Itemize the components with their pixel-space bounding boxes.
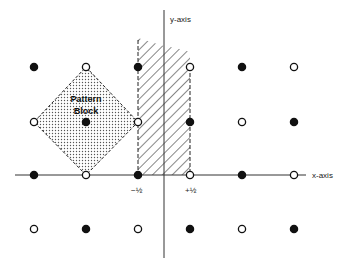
open-circle-icon xyxy=(82,171,89,178)
open-circle-icon xyxy=(290,63,297,70)
tick-label-plus-half: +½ xyxy=(185,186,197,195)
filled-circle-icon xyxy=(186,225,193,232)
filled-circle-icon xyxy=(290,118,297,125)
filled-circle-icon xyxy=(82,225,89,232)
lattice-diagram: Pattern Block x-axis y-axis −½ +½ xyxy=(0,0,357,267)
filled-circle-icon xyxy=(186,118,193,125)
open-circle-icon xyxy=(134,225,141,232)
open-circle-icon xyxy=(30,118,37,125)
tick-label-minus-half: −½ xyxy=(131,186,143,195)
open-circle-icon xyxy=(238,225,245,232)
filled-circle-icon xyxy=(134,171,141,178)
filled-circle-icon xyxy=(134,63,141,70)
open-circle-icon xyxy=(238,118,245,125)
open-circle-icon xyxy=(134,118,141,125)
filled-circle-icon xyxy=(238,63,245,70)
filled-circle-icon xyxy=(82,118,89,125)
filled-circle-icon xyxy=(30,171,37,178)
pattern-block-label-line1: Pattern xyxy=(70,94,101,104)
pattern-block-label-line2: Block xyxy=(74,106,100,116)
open-circle-icon xyxy=(30,225,37,232)
y-axis-label: y-axis xyxy=(170,15,191,24)
open-circle-icon xyxy=(82,63,89,70)
filled-circle-icon xyxy=(290,225,297,232)
open-circle-icon xyxy=(186,171,193,178)
x-axis-label: x-axis xyxy=(312,171,333,180)
filled-circle-icon xyxy=(30,63,37,70)
filled-circle-icon xyxy=(238,171,245,178)
open-circle-icon xyxy=(186,63,193,70)
open-circle-icon xyxy=(290,171,297,178)
diagram-canvas: Pattern Block x-axis y-axis −½ +½ xyxy=(0,0,357,267)
